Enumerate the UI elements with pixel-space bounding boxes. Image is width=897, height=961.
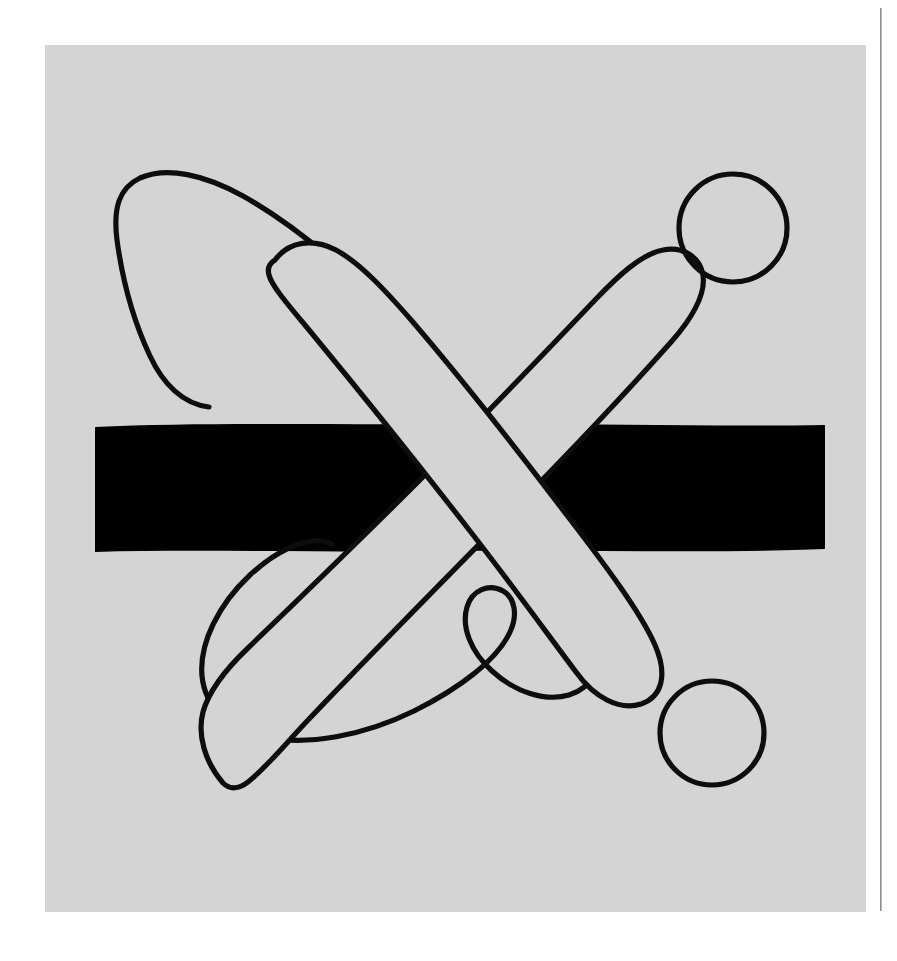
page-root: Abstract Line Drawing <box>0 0 897 961</box>
artwork-svg <box>0 0 897 961</box>
page-edge-rule <box>880 8 882 911</box>
